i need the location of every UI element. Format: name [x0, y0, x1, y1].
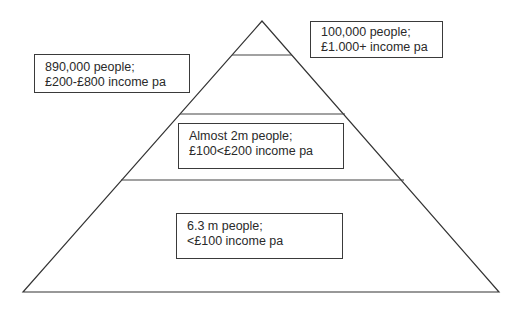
tier-3-label: Almost 2m people; £100<£200 income pa — [178, 123, 344, 169]
tier-4-label: 6.3 m people; <£100 income pa — [176, 213, 343, 259]
tier-1-people: 100,000 people; — [321, 25, 442, 40]
tier-3-people: Almost 2m people; — [189, 129, 343, 144]
tier-3-income: £100<£200 income pa — [189, 144, 343, 159]
tier-2-label: 890,000 people; £200-£800 income pa — [34, 54, 190, 93]
tier-1-income: £1.000+ income pa — [321, 40, 442, 55]
tier-1-label: 100,000 people; £1.000+ income pa — [310, 21, 443, 58]
tier-2-income: £200-£800 income pa — [45, 75, 189, 90]
tier-4-income: <£100 income pa — [187, 234, 342, 249]
tier-2-people: 890,000 people; — [45, 60, 189, 75]
tier-4-people: 6.3 m people; — [187, 219, 342, 234]
